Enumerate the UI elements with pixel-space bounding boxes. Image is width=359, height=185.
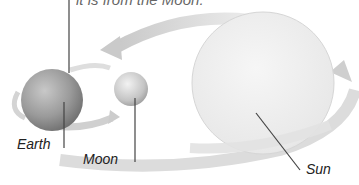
earth-label: Earth [17,136,50,152]
sun-label: Sun [306,161,331,177]
sun-earth-moon-diagram [0,0,359,185]
moon-label: Moon [83,151,118,167]
moon-sphere [114,72,148,106]
earth-sphere [21,69,83,131]
